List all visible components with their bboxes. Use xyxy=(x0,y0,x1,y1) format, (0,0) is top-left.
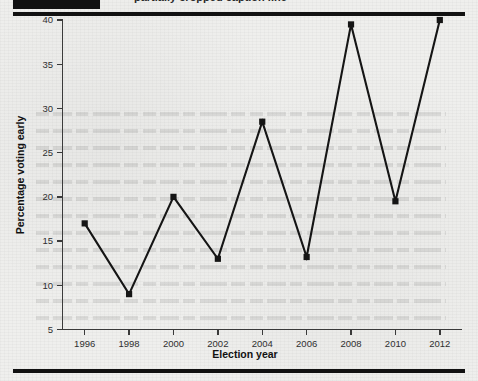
x-tick-label: 2000 xyxy=(163,338,184,349)
cropped-caption: partially cropped caption line xyxy=(134,0,394,7)
data-point-marker: 2002: 13 xyxy=(215,256,221,262)
data-point-marker: 2004: 28.5 xyxy=(259,119,265,125)
redacted-header-bar xyxy=(13,0,100,9)
data-point-marker: 2006: 13.2 xyxy=(304,254,310,260)
series-markers: 1996: 171998: 92000: 202002: 132004: 28.… xyxy=(82,17,443,297)
data-point-marker: 2010: 19.5 xyxy=(392,198,398,204)
x-tick-label: 2010 xyxy=(385,338,406,349)
y-tick-label: 40 xyxy=(42,16,53,25)
line-chart: 510152025303540 Percentage voting early … xyxy=(0,16,478,361)
y-tick-label: 5 xyxy=(48,324,53,335)
figure-rule-bottom xyxy=(13,369,465,373)
x-tick-label: 2006 xyxy=(296,338,317,349)
x-axis: 199619982000200220042006200820102012 Ele… xyxy=(63,330,463,361)
data-point-marker: 2012: 40 xyxy=(437,17,443,23)
x-tick-label: 1996 xyxy=(74,338,95,349)
data-point-marker: 1996: 17 xyxy=(82,220,88,226)
data-point-marker: 2008: 39.5 xyxy=(348,21,354,27)
y-tick-label: 20 xyxy=(42,191,53,202)
series-group: 1996: 171998: 92000: 202002: 132004: 28.… xyxy=(82,17,443,297)
y-tick-label: 30 xyxy=(42,103,53,114)
y-tick-label: 35 xyxy=(42,59,53,70)
data-point-marker: 2000: 20 xyxy=(170,194,176,200)
y-tick-label: 10 xyxy=(42,280,53,291)
y-tick-label: 25 xyxy=(42,147,53,158)
y-axis: 510152025303540 Percentage voting early xyxy=(14,16,63,335)
y-axis-title: Percentage voting early xyxy=(14,116,26,235)
y-axis-ticks xyxy=(57,20,63,330)
x-axis-ticks xyxy=(85,330,440,336)
figure-page: partially cropped caption line 510152025… xyxy=(0,0,478,381)
x-axis-title: Election year xyxy=(212,348,277,360)
cropped-caption-text: partially cropped caption line xyxy=(134,0,394,3)
y-axis-tick-labels: 510152025303540 xyxy=(42,16,53,335)
y-tick-label: 15 xyxy=(42,235,53,246)
x-tick-label: 1998 xyxy=(119,338,140,349)
chart-canvas: 510152025303540 Percentage voting early … xyxy=(0,16,478,361)
x-tick-label: 2008 xyxy=(340,338,361,349)
data-point-marker: 1998: 9 xyxy=(126,291,132,297)
x-tick-label: 2012 xyxy=(429,338,450,349)
series-line-percentage-voting-early xyxy=(85,20,440,294)
